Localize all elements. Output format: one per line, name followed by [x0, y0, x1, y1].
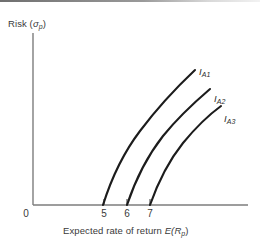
curve-label-IA3-subscript: A3 [227, 118, 236, 125]
x-axis-label: Expected rate of return E(Rp) [63, 225, 189, 237]
x-tick-label-5: 5 [97, 208, 111, 219]
x-tick-label-7: 7 [143, 208, 157, 219]
indifference-curve-IA2 [127, 89, 210, 205]
curve-label-IA2-subscript: A2 [217, 98, 226, 105]
x-tick-label-6: 6 [120, 208, 134, 219]
x-axis-label-tail: ) [185, 225, 188, 236]
x-axis-origin-label: 0 [19, 208, 33, 219]
curve-label-IA1: IA1 [199, 66, 211, 78]
indifference-curve-figure: Risk (σp) 0 5 6 7 IA1 IA2 IA3 Expected r… [0, 0, 260, 245]
curve-label-IA3: IA3 [224, 113, 236, 125]
indifference-curve-IA3 [150, 106, 221, 205]
curve-label-IA2: IA2 [214, 93, 226, 105]
x-axis-expected-return-symbol: E(R [165, 225, 182, 236]
indifference-curve-IA1 [103, 70, 195, 205]
curve-label-IA1-subscript: A1 [202, 71, 211, 78]
x-axis-label-text: Expected rate of return [63, 225, 165, 236]
